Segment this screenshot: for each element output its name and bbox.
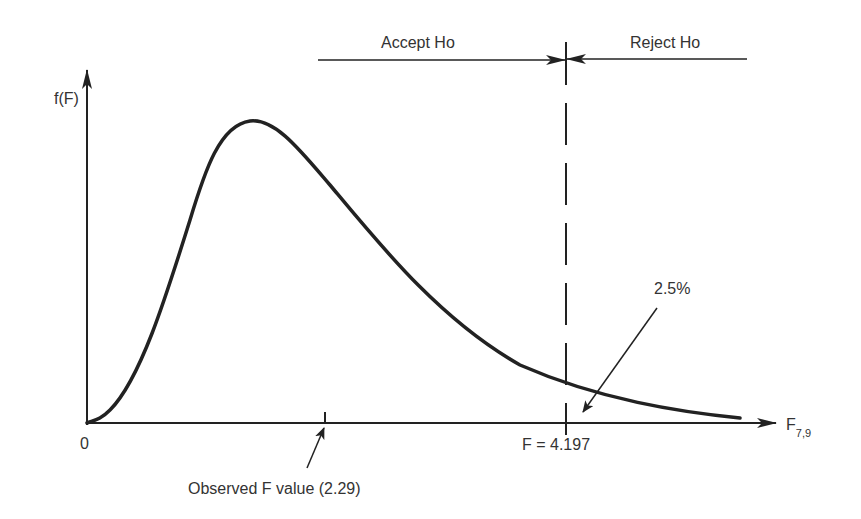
density-curve [87,121,740,423]
f-distribution-diagram: f(F) F7,9 0 F = 4.197 Accept Ho Reject H… [0,0,861,519]
y-axis-label: f(F) [54,90,79,107]
x-axis-label-subscript: 7,9 [796,427,811,439]
tail-area-arrow [583,308,657,412]
origin-label: 0 [80,435,89,452]
critical-value-label: F = 4.197 [522,436,590,453]
reject-region-label: Reject Ho [630,34,700,51]
accept-region-label: Accept Ho [381,34,455,51]
x-axis-label: F7,9 [786,416,811,439]
observed-value-label: Observed F value (2.29) [188,480,361,497]
observed-value-arrow [307,428,324,468]
x-axis-label-main: F [786,416,796,433]
tail-area-label: 2.5% [654,280,690,297]
